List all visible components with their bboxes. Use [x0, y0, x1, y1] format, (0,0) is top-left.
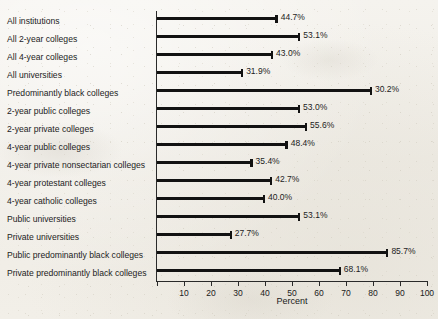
- bar-value-label: 40.0%: [268, 192, 292, 202]
- bar-row: 31.9%: [157, 65, 427, 84]
- x-axis-tick: [319, 281, 320, 286]
- bar-value-label: 44.7%: [281, 12, 305, 22]
- plot-area: 44.7%53.1%43.0%31.9%30.2%53.0%55.6%48.4%…: [157, 11, 427, 281]
- bar-row: 35.4%: [157, 155, 427, 174]
- bar-value-label: 48.4%: [291, 138, 315, 148]
- x-axis-title: Percent: [157, 296, 427, 306]
- category-label: All universities: [7, 65, 155, 84]
- category-label: 4-year public colleges: [7, 137, 155, 156]
- bar: [157, 197, 265, 200]
- category-label-column: All institutionsAll 2-year collegesAll 4…: [7, 11, 155, 281]
- x-axis-tick: [373, 281, 374, 286]
- category-label: 4-year catholic colleges: [7, 191, 155, 210]
- x-axis-tick: [292, 281, 293, 286]
- category-label: Private predominantly black colleges: [7, 263, 155, 282]
- category-label: Public predominantly black colleges: [7, 245, 155, 264]
- bar-row: 44.7%: [157, 11, 427, 30]
- bar: [157, 143, 288, 146]
- bar-end-cap: [386, 249, 388, 257]
- category-label: Private universities: [7, 227, 155, 246]
- bar-value-label: 85.7%: [391, 246, 415, 256]
- x-axis-tick: [211, 281, 212, 286]
- category-label: All 2-year colleges: [7, 29, 155, 48]
- bar-end-cap: [305, 123, 307, 131]
- bar-value-label: 30.2%: [375, 84, 399, 94]
- bar-row: 53.0%: [157, 101, 427, 120]
- bar-end-cap: [298, 105, 300, 113]
- bar-row: 55.6%: [157, 119, 427, 138]
- bar-value-label: 42.7%: [275, 174, 299, 184]
- category-label: All institutions: [7, 11, 155, 30]
- x-axis-tick: [427, 281, 428, 286]
- category-label: Predominantly black colleges: [7, 83, 155, 102]
- bar: [157, 215, 300, 218]
- bar-value-label: 55.6%: [310, 120, 334, 130]
- bar-row: 53.1%: [157, 209, 427, 228]
- bar-value-label: 43.0%: [276, 48, 300, 58]
- bar: [157, 53, 273, 56]
- bar: [157, 179, 272, 182]
- bar: [157, 71, 243, 74]
- category-label: All 4-year colleges: [7, 47, 155, 66]
- chart-page: All institutionsAll 2-year collegesAll 4…: [0, 0, 438, 319]
- x-axis-tick: [238, 281, 239, 286]
- bar-value-label: 68.1%: [344, 264, 368, 274]
- category-label: 2-year public colleges: [7, 101, 155, 120]
- bar: [157, 233, 232, 236]
- bar-end-cap: [241, 69, 243, 77]
- bar-row: 68.1%: [157, 263, 427, 282]
- category-label: Public universities: [7, 209, 155, 228]
- category-label: 2-year private colleges: [7, 119, 155, 138]
- bar-end-cap: [298, 33, 300, 41]
- bar: [157, 269, 341, 272]
- bar-value-label: 53.0%: [303, 102, 327, 112]
- bar-end-cap: [298, 213, 300, 221]
- bar-end-cap: [275, 15, 277, 23]
- bar-value-label: 53.1%: [303, 30, 327, 40]
- bar-end-cap: [370, 87, 372, 95]
- bar: [157, 251, 388, 254]
- bar-end-cap: [230, 231, 232, 239]
- category-label: 4-year private nonsectarian colleges: [7, 155, 155, 174]
- bar-row: 27.7%: [157, 227, 427, 246]
- bar-value-label: 27.7%: [235, 228, 259, 238]
- bar-row: 53.1%: [157, 29, 427, 48]
- bar: [157, 107, 300, 110]
- bar-value-label: 31.9%: [246, 66, 270, 76]
- bar: [157, 125, 307, 128]
- bar-end-cap: [271, 51, 273, 59]
- bar-end-cap: [250, 159, 252, 167]
- x-axis-tick: [265, 281, 266, 286]
- bar-row: 48.4%: [157, 137, 427, 156]
- bar-end-cap: [263, 195, 265, 203]
- x-axis-tick: [184, 281, 185, 286]
- x-axis-tick: [400, 281, 401, 286]
- bar-end-cap: [339, 267, 341, 275]
- bar-end-cap: [285, 141, 287, 149]
- bar: [157, 17, 278, 20]
- bar-row: 30.2%: [157, 83, 427, 102]
- bar-row: 43.0%: [157, 47, 427, 66]
- bar: [157, 161, 253, 164]
- bar-value-label: 53.1%: [303, 210, 327, 220]
- bar-row: 42.7%: [157, 173, 427, 192]
- category-label: 4-year protestant colleges: [7, 173, 155, 192]
- x-axis-tick: [346, 281, 347, 286]
- bar: [157, 35, 300, 38]
- bar-row: 40.0%: [157, 191, 427, 210]
- bar-row: 85.7%: [157, 245, 427, 264]
- x-axis-tick: [157, 281, 158, 286]
- bar-end-cap: [270, 177, 272, 185]
- bar: [157, 89, 372, 92]
- bar-value-label: 35.4%: [256, 156, 280, 166]
